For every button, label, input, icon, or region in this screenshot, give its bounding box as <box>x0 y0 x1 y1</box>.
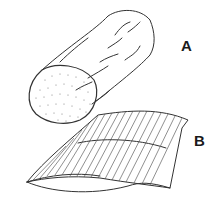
illustration-figure: A B <box>0 0 217 210</box>
panel-label-a: A <box>181 38 192 53</box>
panel-label-b: B <box>194 133 205 148</box>
log-icon <box>0 0 217 210</box>
